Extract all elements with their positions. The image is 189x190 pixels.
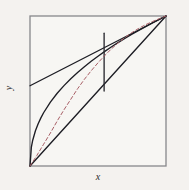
figure-plot: x y [0,0,189,190]
figure-page: x y [0,0,189,190]
y-axis-label: y [3,85,14,91]
x-axis-label: x [95,171,101,182]
